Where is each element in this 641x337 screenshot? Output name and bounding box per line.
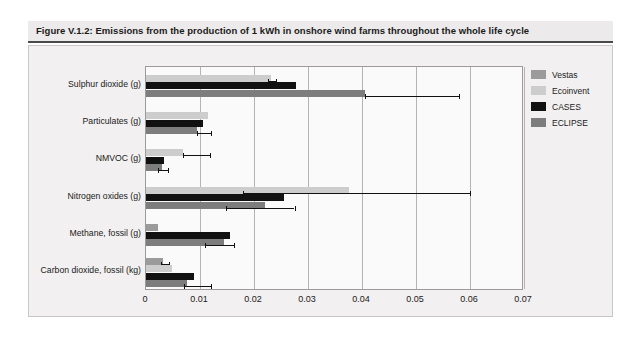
bar (146, 127, 197, 134)
y-axis-category-label: Methane, fossil (g) (70, 228, 141, 238)
legend-item[interactable]: CASES (531, 100, 611, 113)
x-tick-label: 0.02 (244, 294, 262, 304)
legend-label: Vestas (552, 70, 578, 80)
error-bar (365, 96, 460, 97)
legend-item[interactable]: Ecoinvent (531, 84, 611, 97)
gridline (308, 67, 309, 289)
error-bar (183, 155, 210, 156)
bar (146, 120, 203, 127)
error-bar-cap-high (168, 168, 169, 173)
y-axis-category-label: Nitrogen oxides (g) (68, 191, 141, 201)
error-bar-cap-low (205, 243, 206, 248)
bar (146, 75, 271, 82)
bar (146, 157, 164, 164)
error-bar-cap-low (226, 206, 227, 211)
error-bar-cap-high (234, 243, 235, 248)
legend-swatch-icon (531, 118, 546, 127)
error-bar (205, 245, 234, 246)
bar (146, 112, 208, 119)
error-bar-cap-high (470, 191, 471, 196)
legend-label: Ecoinvent (552, 86, 589, 96)
bar (146, 90, 365, 97)
gridline (254, 67, 255, 289)
bar (146, 149, 183, 156)
x-tick-label: 0.04 (352, 294, 370, 304)
bar (146, 82, 296, 89)
error-bar-cap-high (459, 94, 460, 99)
legend-label: CASES (552, 102, 581, 112)
chart-legend: VestasEcoinventCASESECLIPSE (531, 68, 611, 132)
bar (146, 232, 230, 239)
legend-swatch-icon (531, 102, 546, 111)
error-bar (158, 170, 168, 171)
legend-item[interactable]: Vestas (531, 68, 611, 81)
bar (146, 224, 158, 231)
gridline (200, 67, 201, 289)
bar (146, 280, 187, 287)
error-bar-cap-high (210, 153, 211, 158)
x-tick-label: 0.07 (514, 294, 532, 304)
legend-label: ECLIPSE (552, 118, 588, 128)
gridline (470, 67, 471, 289)
gridline (416, 67, 417, 289)
y-axis-category-label: Sulphur dioxide (g) (68, 79, 141, 89)
bar (146, 273, 194, 280)
gridline (362, 67, 363, 289)
bar (146, 265, 172, 272)
error-bar-cap-low (183, 153, 184, 158)
error-bar (226, 208, 295, 209)
legend-swatch-icon (531, 70, 546, 79)
figure-page: Figure V.1.2: Emissions from the product… (0, 0, 641, 337)
error-bar-cap-low (158, 168, 159, 173)
plot-area (145, 66, 523, 290)
legend-item[interactable]: ECLIPSE (531, 116, 611, 129)
gridline (524, 67, 525, 289)
y-axis-category-label: NMVOC (g) (96, 153, 141, 163)
x-tick-label: 0.06 (460, 294, 478, 304)
error-bar-cap-high (295, 206, 296, 211)
error-bar-cap-low (197, 131, 198, 136)
x-tick-label: 0.03 (298, 294, 316, 304)
bar (146, 194, 284, 201)
error-bar-cap-low (365, 94, 366, 99)
error-bar-cap-high (211, 284, 212, 289)
y-axis-labels: Sulphur dioxide (g)Particulates (g)NMVOC… (0, 0, 141, 337)
y-axis-category-label: Carbon dioxide, fossil (kg) (41, 265, 141, 275)
error-bar (184, 286, 211, 287)
error-bar (197, 133, 211, 134)
x-tick-label: 0 (142, 294, 147, 304)
y-axis-category-label: Particulates (g) (83, 116, 141, 126)
x-tick-label: 0.01 (190, 294, 208, 304)
error-bar-cap-high (211, 131, 212, 136)
legend-swatch-icon (531, 86, 546, 95)
x-tick-label: 0.05 (406, 294, 424, 304)
error-bar-cap-low (184, 284, 185, 289)
